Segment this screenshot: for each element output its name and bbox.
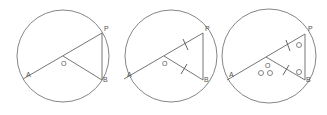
label-p: P: [104, 25, 109, 32]
radius-ob: [63, 56, 102, 80]
label-b: B: [103, 76, 108, 83]
label-p: P: [308, 25, 313, 32]
label-o: O: [265, 62, 271, 69]
label-o: O: [61, 60, 67, 67]
label-b: B: [204, 76, 209, 83]
diameter-ap: [124, 33, 203, 79]
equal-tick-ob: [181, 64, 187, 74]
label-a: A: [229, 71, 234, 78]
angle-mark-o-2: [268, 71, 273, 76]
radius-ob: [164, 56, 203, 80]
label-o: O: [162, 60, 168, 67]
label-p: P: [205, 25, 210, 32]
figure-1: P B A O: [17, 10, 109, 102]
label-b: B: [306, 76, 311, 83]
angle-mark-b: [297, 70, 302, 75]
circle: [222, 9, 316, 103]
label-a: A: [26, 71, 31, 78]
figure-3: P B A O: [222, 9, 316, 103]
circle-theorem-diagrams: P B A O P B A O P B A O: [0, 0, 327, 115]
radius-ob: [266, 57, 305, 80]
label-a: A: [127, 71, 132, 78]
equal-tick-op: [286, 40, 290, 51]
angle-mark-p: [297, 43, 302, 48]
diameter-ap: [23, 33, 102, 79]
angle-mark-o-1: [259, 71, 264, 76]
figure-2: P B A O: [124, 10, 217, 102]
